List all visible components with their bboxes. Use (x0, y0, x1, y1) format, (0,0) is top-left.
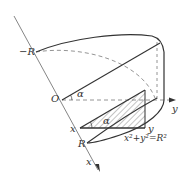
x-axis-arrow (95, 164, 100, 172)
neg-r-label: −R (19, 47, 35, 57)
x-point-label: x (70, 124, 76, 134)
y-axis-label: y (172, 104, 178, 114)
base-hidden-arc (36, 50, 155, 98)
r-point-label: R (78, 139, 86, 149)
diagram-canvas (0, 0, 184, 175)
alpha-arc-top (71, 95, 73, 100)
circle-equation: x²+y²=R² (124, 134, 167, 143)
x-axis-label: x (86, 157, 92, 167)
wedge-diagram: −R O α α x y R x y x²+y²=R² (0, 0, 184, 175)
y-axis-arrow (169, 98, 176, 103)
alpha-top-label: α (77, 89, 84, 99)
alpha-section-label: α (103, 116, 110, 126)
origin-label: O (51, 94, 59, 104)
